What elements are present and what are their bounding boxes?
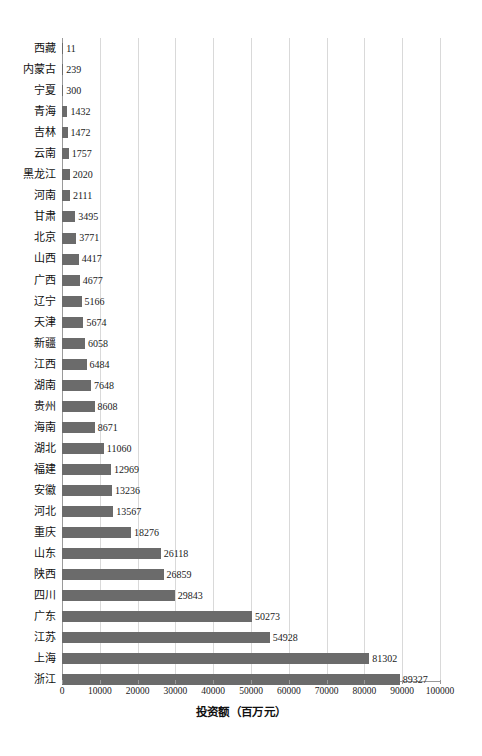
category-label: 云南 xyxy=(0,144,56,163)
bar xyxy=(62,233,76,244)
bar-row: 5674 xyxy=(62,312,440,334)
bar-value-label: 8671 xyxy=(98,418,118,437)
x-tick-mark xyxy=(213,680,214,684)
bar-row: 6484 xyxy=(62,354,440,376)
gridline xyxy=(440,38,441,682)
bar xyxy=(62,443,104,454)
category-label: 海南 xyxy=(0,418,56,437)
category-label: 安徽 xyxy=(0,481,56,500)
category-label: 新疆 xyxy=(0,334,56,353)
bar-row: 26859 xyxy=(62,564,440,586)
category-label: 上海 xyxy=(0,649,56,668)
x-tick-label: 70000 xyxy=(315,684,339,698)
bar-row: 1472 xyxy=(62,122,440,144)
bar-row: 4677 xyxy=(62,270,440,292)
bar-row: 2111 xyxy=(62,185,440,207)
category-label: 河南 xyxy=(0,186,56,205)
category-label: 辽宁 xyxy=(0,292,56,311)
bar-row: 239 xyxy=(62,59,440,81)
bar-value-label: 4417 xyxy=(82,249,102,268)
bar-row: 2020 xyxy=(62,164,440,186)
category-label: 陕西 xyxy=(0,565,56,584)
bar-row: 1432 xyxy=(62,101,440,123)
category-label: 青海 xyxy=(0,102,56,121)
bar-row: 13567 xyxy=(62,501,440,523)
bar xyxy=(62,106,67,117)
bar-value-label: 12969 xyxy=(114,460,139,479)
bar-row: 8671 xyxy=(62,417,440,439)
bar xyxy=(62,85,63,96)
bar-value-label: 11060 xyxy=(107,439,132,458)
x-tick-label: 0 xyxy=(60,684,65,698)
x-tick-label: 50000 xyxy=(239,684,263,698)
bar-value-label: 5674 xyxy=(86,313,106,332)
category-label: 内蒙古 xyxy=(0,60,56,79)
plot-area: 1123930014321472175720202111349537714417… xyxy=(62,38,440,682)
bar xyxy=(62,43,63,54)
x-tick-mark xyxy=(289,680,290,684)
bar xyxy=(62,464,111,475)
y-axis-category-labels: 西藏内蒙古宁夏青海吉林云南黑龙江河南甘肃北京山西广西辽宁天津新疆江西湖南贵州海南… xyxy=(0,38,56,682)
bar-value-label: 18276 xyxy=(134,523,159,542)
bar-value-label: 4677 xyxy=(83,271,103,290)
bar-row: 1757 xyxy=(62,143,440,165)
x-axis-ticks: 0100002000030000400005000060000700008000… xyxy=(62,684,440,700)
x-tick-mark xyxy=(402,680,403,684)
bar-value-label: 300 xyxy=(66,81,81,100)
bar-row: 300 xyxy=(62,80,440,102)
bar xyxy=(62,590,175,601)
bar xyxy=(62,422,95,433)
bar-value-label: 239 xyxy=(66,60,81,79)
bar-row: 18276 xyxy=(62,522,440,544)
category-label: 四川 xyxy=(0,586,56,605)
x-tick-mark xyxy=(364,680,365,684)
bar-value-label: 2020 xyxy=(73,165,93,184)
x-tick-label: 60000 xyxy=(277,684,301,698)
bar xyxy=(62,380,91,391)
bar xyxy=(62,211,75,222)
bar xyxy=(62,127,68,138)
bar-value-label: 11 xyxy=(66,39,76,58)
bar-row: 12969 xyxy=(62,459,440,481)
x-tick-mark xyxy=(440,680,441,684)
bar-value-label: 29843 xyxy=(178,586,203,605)
category-label: 黑龙江 xyxy=(0,165,56,184)
bar-value-label: 6058 xyxy=(88,334,108,353)
bar-row: 7648 xyxy=(62,375,440,397)
category-label: 湖北 xyxy=(0,439,56,458)
bar xyxy=(62,338,85,349)
category-label: 河北 xyxy=(0,502,56,521)
bar-row: 6058 xyxy=(62,333,440,355)
bar-row: 11060 xyxy=(62,438,440,460)
category-label: 广西 xyxy=(0,271,56,290)
bar-value-label: 26859 xyxy=(167,565,192,584)
bar-row: 26118 xyxy=(62,543,440,565)
bar-row: 54928 xyxy=(62,627,440,649)
x-tick-mark xyxy=(175,680,176,684)
bar-value-label: 5166 xyxy=(85,292,105,311)
bar-row: 5166 xyxy=(62,291,440,313)
bar xyxy=(62,190,70,201)
bar-row: 50273 xyxy=(62,606,440,628)
x-tick-label: 10000 xyxy=(88,684,112,698)
x-tick-label: 20000 xyxy=(126,684,150,698)
bar xyxy=(62,485,112,496)
bar-row: 81302 xyxy=(62,648,440,670)
x-tick-label: 90000 xyxy=(390,684,414,698)
bar-row: 4417 xyxy=(62,248,440,270)
bar-value-label: 1432 xyxy=(70,102,90,121)
bar-row: 29843 xyxy=(62,585,440,607)
bar xyxy=(62,275,80,286)
category-label: 西藏 xyxy=(0,39,56,58)
bar xyxy=(62,64,63,75)
category-label: 湖南 xyxy=(0,376,56,395)
x-tick-mark xyxy=(62,680,63,684)
x-tick-label: 30000 xyxy=(164,684,188,698)
bar xyxy=(62,359,87,370)
bar xyxy=(62,632,270,643)
x-tick-label: 100000 xyxy=(426,684,455,698)
bar xyxy=(62,317,83,328)
bar-value-label: 81302 xyxy=(372,649,397,668)
bar-row: 8608 xyxy=(62,396,440,418)
bar-value-label: 1472 xyxy=(71,123,91,142)
